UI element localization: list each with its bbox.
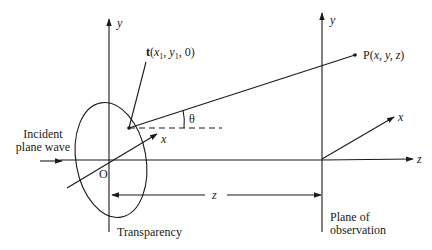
right-z-axis [322, 159, 413, 160]
observation-label-line1: Plane of [330, 210, 370, 224]
diffraction-diagram: y y z x x O t(x1, y1, 0) P(x, y, z) θ z … [0, 0, 432, 250]
point-p-dot [353, 53, 357, 57]
angle-theta-label: θ [189, 112, 195, 126]
transparency-label: Transparency [117, 225, 182, 239]
point-t-leader [129, 62, 146, 128]
right-z-axis-label: z [416, 152, 422, 166]
right-y-axis-label: y [329, 13, 336, 27]
observation-label-line2: observation [330, 223, 386, 237]
left-x-axis [67, 134, 157, 188]
incident-label-line2: plane wave [16, 140, 70, 154]
left-y-axis-label: y [116, 16, 123, 30]
ray-t-to-p [129, 55, 355, 128]
left-x-axis-label: x [160, 132, 167, 146]
right-x-axis [322, 117, 394, 159]
distance-z-label: z [211, 188, 217, 202]
origin-label: O [99, 167, 108, 181]
right-x-axis-label: x [397, 110, 404, 124]
angle-arc [183, 110, 184, 128]
point-p-label: P(x, y, z) [363, 48, 404, 62]
point-t-label: t(x1, y1, 0) [146, 45, 195, 61]
incident-label-line1: Incident [23, 127, 63, 141]
